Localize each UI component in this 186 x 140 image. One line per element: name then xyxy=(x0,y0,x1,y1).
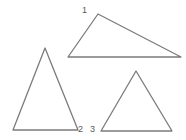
angle-label-2: 2 xyxy=(78,125,83,134)
triangle-bottom-right xyxy=(101,71,172,131)
tall-triangle-left xyxy=(13,48,78,130)
triangles-drawing xyxy=(0,0,186,140)
triangle-figure: 1 2 3 xyxy=(0,0,186,140)
angle-label-3: 3 xyxy=(90,125,95,134)
obtuse-triangle-top-right xyxy=(68,14,181,57)
angle-label-1: 1 xyxy=(82,6,87,15)
